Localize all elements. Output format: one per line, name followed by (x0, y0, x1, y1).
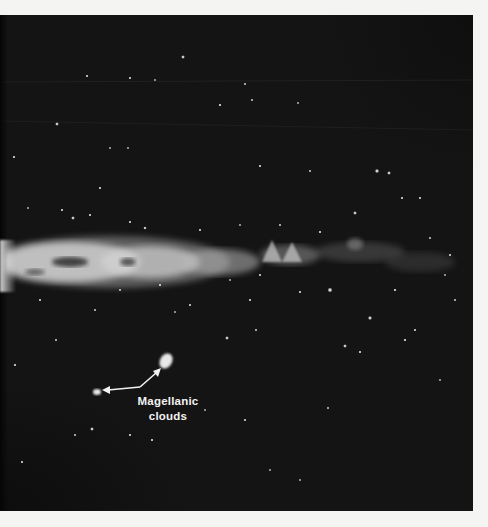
starfield (0, 15, 473, 511)
label-line-1: Magellanic (128, 394, 208, 409)
milky-way-band (0, 236, 455, 288)
left-edge-flare (0, 240, 16, 292)
label-line-2: clouds (128, 409, 208, 424)
magellanic-clouds-label: Magellanic clouds (128, 394, 208, 424)
milky-way-photograph (0, 15, 473, 511)
annotation-arrows (102, 368, 161, 394)
